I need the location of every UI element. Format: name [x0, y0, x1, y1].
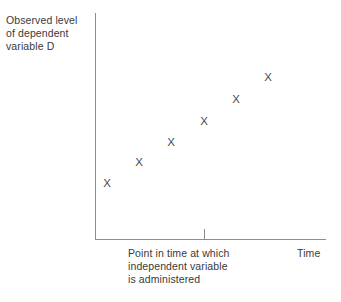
data-point-marker: X [200, 116, 208, 128]
data-point-marker: X [167, 137, 175, 149]
x-axis-intervention-tick [204, 229, 205, 240]
y-axis-label: Observed level of dependent variable D [6, 14, 90, 54]
data-point-marker: X [264, 72, 272, 84]
y-axis-line [95, 13, 96, 240]
scatter-plot-figure: Observed level of dependent variable D X… [0, 0, 341, 302]
data-point-marker: X [232, 94, 240, 106]
x-axis-line [95, 239, 326, 240]
data-point-marker: X [135, 157, 143, 169]
data-point-marker: X [103, 178, 111, 190]
x-axis-intervention-label: Point in time at which independent varia… [128, 247, 288, 287]
x-axis-time-label: Time [297, 247, 341, 260]
